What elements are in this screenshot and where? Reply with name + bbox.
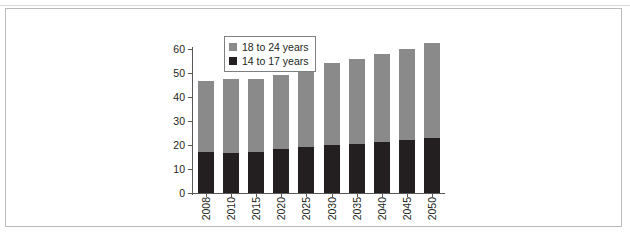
x-axis-label-2008: 2008: [201, 197, 212, 220]
y-tick-label: 40: [173, 92, 185, 103]
bar-segment-14-to-17: [324, 145, 340, 193]
bar-segment-18-to-24: [273, 75, 289, 149]
bar-segment-18-to-24: [374, 54, 390, 142]
bar-segment-14-to-17: [374, 142, 390, 193]
bar-group-2050: [424, 43, 440, 193]
bar-segment-14-to-17: [399, 140, 415, 193]
x-axis-label-2050: 2050: [427, 197, 438, 220]
bar-group-2020: [273, 75, 289, 193]
bar-group-2010: [223, 79, 239, 193]
x-axis-label-2035: 2035: [352, 197, 363, 220]
y-tick-mark: [188, 121, 192, 122]
bar-group-2030: [324, 63, 340, 193]
bar-segment-14-to-17: [273, 149, 289, 193]
x-axis-label-2045: 2045: [402, 197, 413, 220]
bar-segment-18-to-24: [324, 63, 340, 145]
bar-segment-18-to-24: [248, 79, 264, 153]
y-tick-label: 60: [173, 44, 185, 55]
bar-segment-14-to-17: [349, 144, 365, 193]
scan-top-edge: [0, 0, 630, 7]
x-axis-label-2020: 2020: [276, 197, 287, 220]
bar-segment-18-to-24: [298, 70, 314, 147]
x-axis-label-2040: 2040: [377, 197, 388, 220]
bar-group-2025: [298, 70, 314, 193]
bar-group-2035: [349, 59, 365, 193]
y-tick-mark: [188, 49, 192, 50]
y-tick-mark: [188, 169, 192, 170]
y-tick-label: 10: [173, 164, 185, 175]
bar-segment-18-to-24: [198, 81, 214, 152]
bar-segment-18-to-24: [399, 49, 415, 140]
bar-group-2008: [198, 81, 214, 193]
bar-group-2045: [399, 49, 415, 193]
y-tick-label: 0: [179, 188, 185, 199]
y-tick-label: 20: [173, 140, 185, 151]
y-tick-mark: [188, 97, 192, 98]
bar-segment-14-to-17: [424, 138, 440, 193]
legend-item-14-to-17: 14 to 17 years: [229, 54, 309, 68]
bar-group-2015: [248, 79, 264, 193]
bar-segment-14-to-17: [223, 153, 239, 193]
bar-segment-14-to-17: [298, 147, 314, 193]
y-tick-label: 30: [173, 116, 185, 127]
bar-segment-18-to-24: [424, 43, 440, 138]
legend-swatch-18-to-24-icon: [229, 43, 237, 51]
legend-swatch-14-to-17-icon: [229, 57, 237, 65]
x-axis-label-2010: 2010: [226, 197, 237, 220]
bar-segment-14-to-17: [198, 152, 214, 193]
figure-frame: 0102030405060 20082010201520202025203020…: [5, 8, 622, 227]
x-axis-label-2025: 2025: [301, 197, 312, 220]
y-tick-label: 50: [173, 68, 185, 79]
bar-segment-18-to-24: [349, 59, 365, 144]
legend-item-18-to-24: 18 to 24 years: [229, 40, 309, 54]
y-tick-mark: [188, 145, 192, 146]
chart-page: 0102030405060 20082010201520202025203020…: [0, 0, 630, 238]
bar-group-2040: [374, 54, 390, 193]
bar-segment-18-to-24: [223, 79, 239, 153]
x-axis-label-2030: 2030: [327, 197, 338, 220]
legend-label-14-to-17: 14 to 17 years: [242, 56, 309, 67]
y-tick-mark: [188, 193, 192, 194]
bar-segment-14-to-17: [248, 152, 264, 193]
x-axis-label-2015: 2015: [251, 197, 262, 220]
chart-legend: 18 to 24 years 14 to 17 years: [224, 36, 316, 72]
legend-label-18-to-24: 18 to 24 years: [242, 42, 309, 53]
y-tick-mark: [188, 73, 192, 74]
